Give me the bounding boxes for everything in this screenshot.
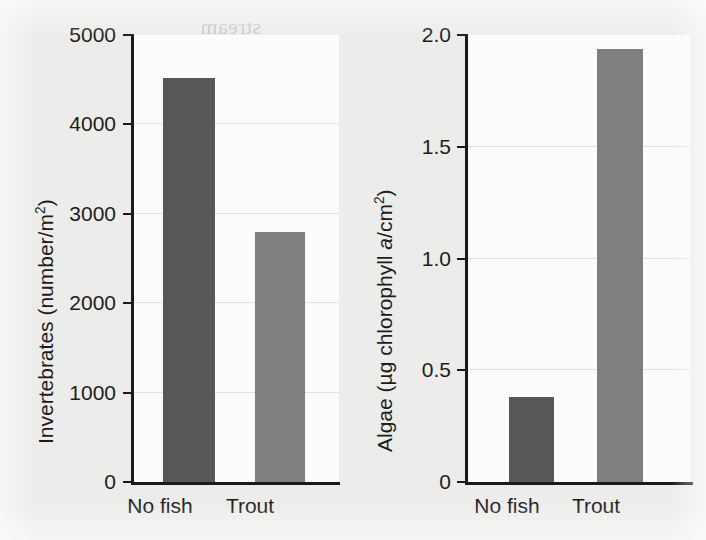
plot-area-invertebrates (134, 35, 339, 482)
x-category-label-no-fish: No fish (457, 494, 557, 518)
y-tick-label: 4000 (20, 112, 116, 136)
plot-area-algae (468, 35, 690, 482)
chart-panel-algae: 2.0 1.5 1.0 0.5 0 No fish Trout Algae (µ… (353, 0, 706, 540)
bar-algae-trout (597, 49, 643, 482)
y-axis-label-algae: Algae (µg chlorophyll a/cm2) (373, 189, 397, 452)
bar-invertebrates-trout (255, 232, 305, 482)
y-tick (123, 34, 131, 36)
figure-container: stream ecol ogi cal tions in ecolog pert… (0, 0, 706, 540)
y-tick (123, 302, 131, 304)
gridline (468, 369, 690, 370)
y-tick (123, 123, 131, 125)
x-category-label-trout: Trout (205, 494, 295, 518)
y-tick-label: 5000 (20, 23, 116, 47)
y-tick (457, 34, 465, 36)
x-axis-algae (465, 482, 693, 485)
bar-algae-no-fish (509, 397, 554, 482)
y-axis-label-suffix: ) (34, 199, 57, 206)
y-axis-label-italic: a (373, 238, 396, 250)
y-tick (457, 258, 465, 260)
y-axis-label-invertebrates: Invertebrates (number/m2) (34, 199, 58, 444)
y-axis-label-mid: /cm (373, 204, 396, 238)
y-axis-label-text: Invertebrates (number/m (34, 214, 57, 444)
y-tick (123, 213, 131, 215)
gridline (468, 146, 690, 147)
y-tick-label: 0 (20, 470, 116, 494)
x-category-label-no-fish: No fish (110, 494, 210, 518)
gridline (468, 258, 690, 259)
y-tick (123, 392, 131, 394)
y-tick (457, 369, 465, 371)
y-axis-label-suffix: ) (373, 189, 396, 196)
y-tick (123, 481, 131, 483)
y-axis-invertebrates (131, 34, 134, 485)
y-tick (457, 481, 465, 483)
y-axis-algae (465, 34, 468, 485)
y-tick-label: 1.5 (361, 135, 451, 159)
chart-panel-invertebrates: 5000 4000 3000 2000 1000 0 No fish Trout… (0, 0, 353, 540)
y-tick-label: 0 (361, 470, 451, 494)
bar-invertebrates-no-fish (163, 78, 215, 482)
y-tick-label: 2.0 (361, 23, 451, 47)
y-axis-label-text: Algae (µg chlorophyll (373, 250, 396, 452)
y-axis-label-superscript: 2 (32, 206, 48, 214)
y-axis-label-superscript: 2 (371, 196, 387, 204)
y-tick (457, 146, 465, 148)
x-category-label-trout: Trout (551, 494, 641, 518)
x-axis-invertebrates (131, 482, 340, 485)
